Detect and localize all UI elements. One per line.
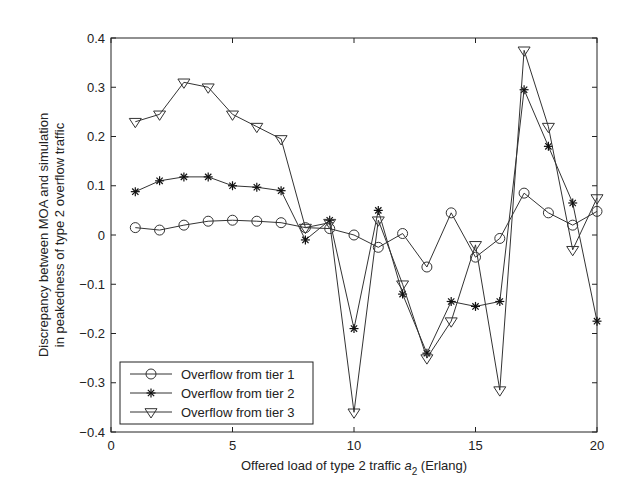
triangle-down-marker <box>445 318 457 327</box>
y-axis-title-line1: Discrepancy between MOA and simulation <box>36 113 51 357</box>
y-tick-label: −0.1 <box>79 277 105 292</box>
star-marker <box>568 198 577 207</box>
x-tick-label: 15 <box>468 438 482 453</box>
star-marker <box>147 389 156 398</box>
legend-label: Overflow from tier 3 <box>181 405 294 420</box>
y-tick-label: −0.4 <box>79 425 105 440</box>
y-tick-label: −0.2 <box>79 326 105 341</box>
star-marker <box>374 206 383 215</box>
y-tick-label: 0 <box>98 228 105 243</box>
x-tick-label: 10 <box>347 438 361 453</box>
legend: Overflow from tier 1Overflow from tier 2… <box>120 362 313 424</box>
star-marker <box>301 235 310 244</box>
star-marker <box>495 297 504 306</box>
star-marker <box>447 297 456 306</box>
y-tick-label: 0.1 <box>87 178 105 193</box>
star-marker <box>593 317 602 326</box>
star-marker <box>131 187 140 196</box>
y-tick-label: 0.2 <box>87 129 105 144</box>
star-marker <box>252 183 261 192</box>
y-axis-title-line2: in peakedness of type 2 overflow traffic <box>52 122 67 347</box>
legend-label: Overflow from tier 1 <box>181 367 294 382</box>
star-marker <box>350 324 359 333</box>
y-tick-label: −0.3 <box>79 375 105 390</box>
star-marker <box>228 181 237 190</box>
star-marker <box>155 176 164 185</box>
star-marker <box>471 302 480 311</box>
legend-label: Overflow from tier 2 <box>181 386 294 401</box>
x-axis-title: Offered load of type 2 traffic a2 (Erlan… <box>241 458 467 477</box>
y-tick-label: 0.3 <box>87 80 105 95</box>
series-1 <box>130 188 602 272</box>
series-line <box>135 50 597 412</box>
star-marker <box>277 186 286 195</box>
x-tick-label: 20 <box>590 438 604 453</box>
star-marker <box>179 172 188 181</box>
y-tick-label: 0.4 <box>87 31 105 46</box>
line-chart: 05101520−0.4−0.3−0.2−0.100.10.20.30.4 Ov… <box>0 0 635 498</box>
x-tick-label: 5 <box>229 438 236 453</box>
star-marker <box>204 172 213 181</box>
triangle-down-marker <box>129 118 141 127</box>
series-line <box>135 193 597 267</box>
triangle-down-marker <box>227 111 239 120</box>
x-tick-label: 0 <box>107 438 114 453</box>
